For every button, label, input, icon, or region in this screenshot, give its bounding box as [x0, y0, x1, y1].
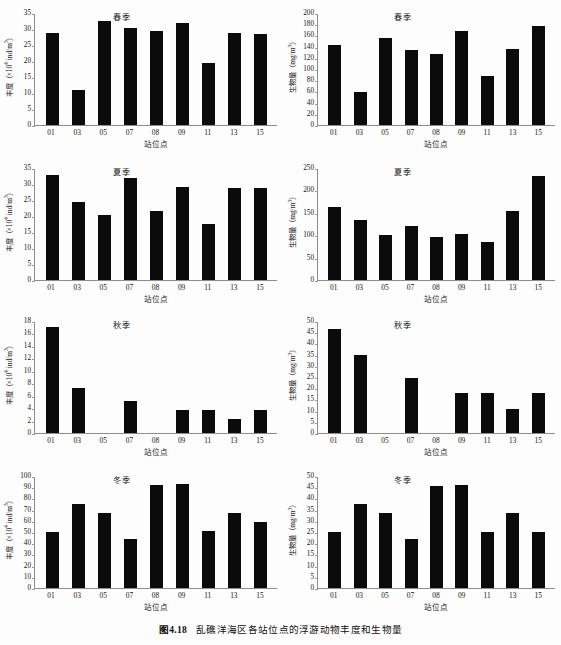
x-tick-label: 15 [526, 128, 552, 137]
chart-spring-abundance: 春季丰度（×104 ind/m3）05101520253035010305070… [0, 6, 283, 161]
bar-slot [373, 477, 398, 588]
x-tick-label: 01 [321, 436, 347, 445]
chart-winter-abundance: 冬季丰度（×104 ind/m3）01020304050607080901000… [0, 469, 283, 624]
y-axis-tick-labels: 05101520253035404550 [299, 477, 316, 589]
y-tick-label: 100 [303, 66, 314, 73]
bar [455, 485, 468, 588]
y-tick-label: 10 [24, 574, 31, 581]
bar [124, 28, 137, 125]
x-tick-label: 01 [38, 591, 64, 600]
plot-area: 05101520253035404550 [299, 322, 555, 434]
y-axis-tick-labels: 020406080100120140160180200 [299, 14, 316, 126]
x-tick-label: 05 [90, 283, 116, 292]
bar-series [35, 322, 277, 433]
bar-slot [424, 169, 449, 280]
bar-slot [449, 169, 474, 280]
bar [202, 63, 215, 125]
bar-slot [195, 14, 221, 125]
bar [532, 176, 545, 280]
y-tick-label: 10 [24, 368, 31, 375]
y-tick-label: 16 [24, 331, 31, 338]
y-tick-label: 0 [310, 430, 314, 437]
plot-area: 0102030405060708090100 [16, 477, 277, 589]
axis-frame [34, 477, 277, 589]
bar-slot [247, 477, 273, 588]
y-tick-label: 15 [307, 552, 314, 559]
bar [354, 504, 367, 588]
bar-slot [500, 477, 525, 588]
y-tick-label: 18 [24, 318, 31, 325]
chart-autumn-abundance: 秋季丰度（×104 ind/m3）02468101214161801030507… [0, 314, 283, 469]
y-tick-label: 6 [27, 393, 31, 400]
chart-cell-winter-biomass: 冬季生物量（mg/m3）0510152025303540455001030507… [283, 469, 561, 624]
y-tick-label: 120 [303, 55, 314, 62]
bar [72, 202, 85, 280]
x-tick-label: 05 [90, 128, 116, 137]
y-tick-label: 20 [307, 111, 314, 118]
bar [98, 21, 111, 125]
y-tick-label: 15 [307, 397, 314, 404]
bar-slot [91, 477, 117, 588]
bar-slot [117, 14, 143, 125]
y-tick-label: 180 [303, 22, 314, 29]
bar [354, 92, 367, 125]
bar-slot [322, 477, 347, 588]
x-axis-title: 站位点 [317, 601, 555, 612]
x-tick-label: 08 [142, 591, 168, 600]
x-tick-label: 07 [116, 436, 142, 445]
x-tick-label: 11 [195, 283, 221, 292]
x-tick-label: 09 [169, 128, 195, 137]
bar-slot [398, 322, 423, 433]
y-tick-label: 35 [307, 352, 314, 359]
bar-slot [91, 322, 117, 433]
x-tick-label: 05 [372, 591, 398, 600]
bar-slot [398, 14, 423, 125]
x-tick-label: 13 [221, 436, 247, 445]
bar-slot [91, 14, 117, 125]
axis-frame [317, 14, 555, 126]
y-axis-tick-labels: 05101520253035 [16, 14, 33, 126]
bar-slot [65, 477, 91, 588]
y-tick-label: 200 [303, 188, 314, 195]
x-tick-label: 07 [398, 128, 424, 137]
y-tick-label: 2 [27, 418, 31, 425]
x-tick-label: 05 [372, 283, 398, 292]
bar-slot [322, 169, 347, 280]
bar [176, 23, 189, 125]
bar [202, 531, 215, 588]
bar [46, 532, 59, 588]
bar [405, 378, 418, 433]
y-tick-mark [32, 434, 35, 435]
axis-frame [34, 14, 277, 126]
bar [228, 419, 241, 433]
bar [228, 33, 241, 125]
x-tick-label: 13 [500, 128, 526, 137]
x-tick-label: 09 [449, 283, 475, 292]
x-axis-tick-labels: 010305070809111315 [34, 128, 277, 137]
bar-slot [39, 477, 65, 588]
bar [430, 54, 443, 125]
bar-slot [221, 14, 247, 125]
chart-grid: 春季丰度（×104 ind/m3）05101520253035010305070… [0, 6, 561, 618]
x-tick-label: 03 [64, 283, 90, 292]
x-axis-tick-labels: 010305070809111315 [317, 283, 555, 292]
bar [228, 513, 241, 588]
x-tick-label: 09 [169, 591, 195, 600]
bar [481, 393, 494, 433]
y-tick-label: 10 [307, 408, 314, 415]
bar-slot [475, 14, 500, 125]
x-axis-tick-labels: 010305070809111315 [34, 283, 277, 292]
y-tick-label: 0 [310, 122, 314, 129]
chart-cell-spring-biomass: 春季生物量（mg/m3）0204060801001201401601802000… [283, 6, 561, 161]
x-tick-label: 05 [90, 591, 116, 600]
bar [481, 76, 494, 125]
x-tick-label: 07 [116, 591, 142, 600]
y-axis-tick-labels: 050100150200250 [299, 169, 316, 281]
bar-series [35, 14, 277, 125]
x-tick-label: 09 [169, 436, 195, 445]
y-tick-label: 90 [24, 485, 31, 492]
x-tick-label: 13 [500, 591, 526, 600]
y-tick-label: 80 [307, 78, 314, 85]
x-tick-label: 15 [247, 436, 273, 445]
bar-slot [65, 169, 91, 280]
